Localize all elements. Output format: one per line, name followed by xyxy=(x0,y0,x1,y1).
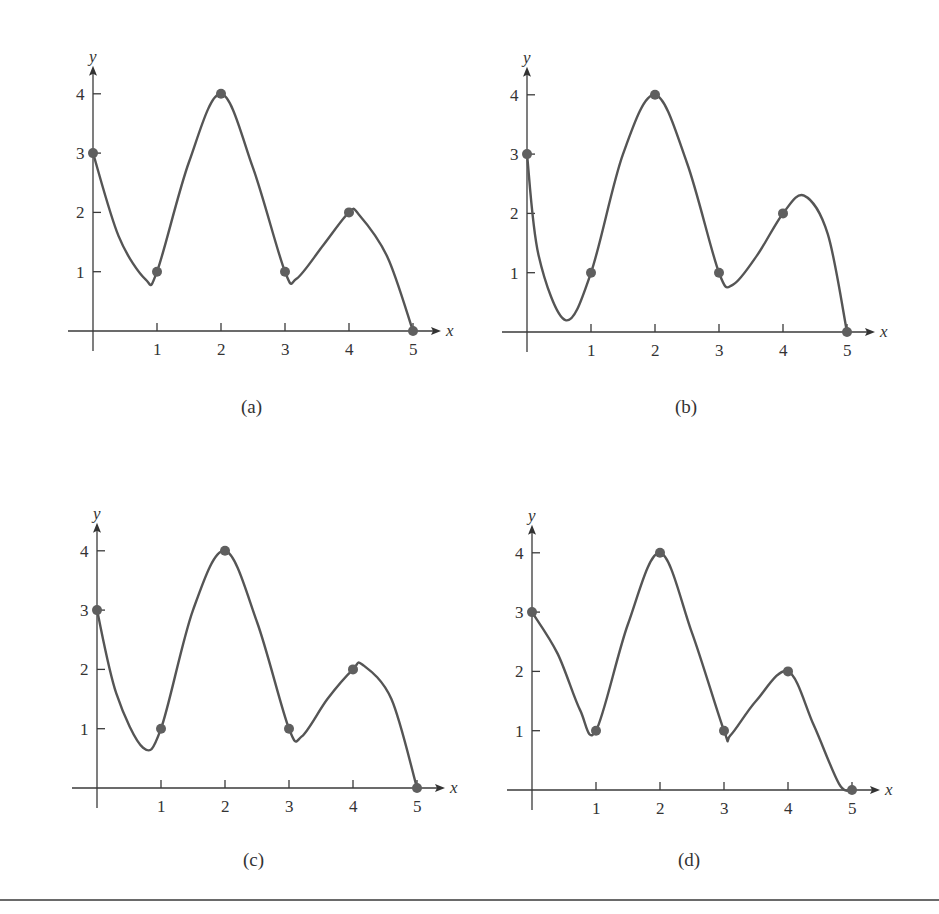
data-point xyxy=(412,783,422,793)
data-point xyxy=(778,208,788,218)
y-tick-label: 4 xyxy=(515,544,524,563)
caption-c: (c) xyxy=(243,849,264,871)
chart-d: xy123451234 xyxy=(507,506,893,818)
x-tick-label: 2 xyxy=(217,340,226,359)
y-axis-label: y xyxy=(521,48,531,67)
x-tick-label: 4 xyxy=(345,340,354,359)
x-tick-label: 4 xyxy=(779,341,788,360)
data-point xyxy=(655,548,665,558)
curve xyxy=(93,94,413,331)
x-axis-label: x xyxy=(449,778,458,797)
data-point xyxy=(156,724,166,734)
data-point xyxy=(847,785,857,795)
chart-b: xy123451234 xyxy=(502,48,888,360)
caption-a: (a) xyxy=(241,396,262,418)
curve xyxy=(527,95,847,332)
y-tick-label: 3 xyxy=(76,144,85,163)
x-tick-label: 2 xyxy=(651,341,660,360)
data-point xyxy=(527,607,537,617)
y-tick-label: 1 xyxy=(80,720,89,739)
data-point xyxy=(152,267,162,277)
data-point xyxy=(216,89,226,99)
y-tick-label: 2 xyxy=(515,662,524,681)
x-tick-label: 3 xyxy=(720,799,729,818)
x-axis-label: x xyxy=(879,322,888,341)
x-tick-label: 2 xyxy=(656,799,665,818)
charts-canvas: xy123451234xy123451234xy123451234xy12345… xyxy=(0,0,939,914)
chart-c: xy123451234 xyxy=(72,504,458,816)
x-tick-label: 5 xyxy=(848,799,857,818)
caption-d: (d) xyxy=(678,849,700,871)
x-tick-label: 3 xyxy=(281,340,290,359)
data-point xyxy=(220,546,230,556)
y-axis-label: y xyxy=(91,504,101,523)
x-tick-label: 3 xyxy=(715,341,724,360)
caption-b: (b) xyxy=(675,396,697,418)
data-point xyxy=(586,268,596,278)
x-tick-label: 1 xyxy=(157,797,166,816)
data-point xyxy=(408,326,418,336)
chart-a: xy123451234 xyxy=(68,47,454,359)
data-point xyxy=(344,207,354,217)
data-point xyxy=(348,664,358,674)
data-point xyxy=(714,268,724,278)
x-tick-label: 3 xyxy=(285,797,294,816)
x-tick-label: 2 xyxy=(221,797,230,816)
y-tick-label: 1 xyxy=(515,722,524,741)
y-axis-label: y xyxy=(526,506,536,525)
y-tick-label: 1 xyxy=(510,264,519,283)
y-tick-label: 3 xyxy=(80,601,89,620)
data-point xyxy=(591,726,601,736)
x-tick-label: 4 xyxy=(784,799,793,818)
y-tick-label: 3 xyxy=(515,603,524,622)
data-point xyxy=(650,90,660,100)
y-tick-label: 3 xyxy=(510,145,519,164)
y-tick-label: 4 xyxy=(76,85,85,104)
curve xyxy=(532,553,852,791)
x-tick-label: 5 xyxy=(413,797,422,816)
data-point xyxy=(842,327,852,337)
x-tick-label: 1 xyxy=(592,799,601,818)
data-point xyxy=(783,666,793,676)
x-tick-label: 4 xyxy=(349,797,358,816)
curve xyxy=(97,551,417,788)
y-axis-label: y xyxy=(87,47,97,66)
y-tick-label: 2 xyxy=(76,203,85,222)
y-tick-label: 4 xyxy=(510,86,519,105)
x-axis-label: x xyxy=(445,321,454,340)
data-point xyxy=(719,726,729,736)
y-tick-label: 4 xyxy=(80,542,89,561)
y-tick-label: 2 xyxy=(510,204,519,223)
data-point xyxy=(92,605,102,615)
data-point xyxy=(284,724,294,734)
x-axis-label: x xyxy=(884,780,893,799)
x-tick-label: 5 xyxy=(409,340,418,359)
y-tick-label: 1 xyxy=(76,263,85,282)
data-point xyxy=(280,267,290,277)
bottom-rule xyxy=(0,899,939,901)
x-tick-label: 5 xyxy=(843,341,852,360)
data-point xyxy=(522,149,532,159)
data-point xyxy=(88,148,98,158)
x-tick-label: 1 xyxy=(153,340,162,359)
x-tick-label: 1 xyxy=(587,341,596,360)
y-tick-label: 2 xyxy=(80,660,89,679)
